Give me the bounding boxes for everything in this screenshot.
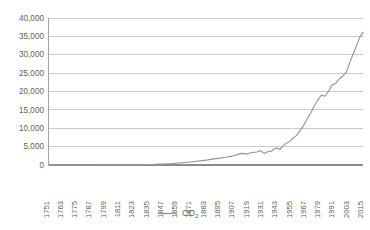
x-axis-labels-group: 1751176317751787179918111823183518471859… [42, 201, 366, 218]
x-axis-tick-label: 1955 [285, 201, 294, 218]
x-axis-tick-label: 1907 [227, 201, 236, 218]
y-axis-labels-group: 40,00035,00030,00025,00020,00015,00010,0… [19, 14, 44, 170]
x-axis-tick-label: 1979 [313, 201, 322, 218]
y-axis-tick-label: 5,000 [24, 142, 45, 151]
y-axis-tick-label: 15,000 [19, 106, 44, 115]
x-axis-tick-label: 2003 [342, 201, 351, 218]
y-axis-tick-label: 30,000 [19, 50, 44, 59]
legend-label-main: CO [182, 208, 195, 218]
x-axis-tick-label: 1895 [213, 201, 222, 218]
chart-canvas: 40,00035,00030,00025,00020,00015,00010,0… [0, 0, 370, 230]
x-axis-tick-label: 1931 [256, 201, 265, 218]
legend-label-subscript: 2 [195, 212, 199, 219]
x-axis-tick-label: 2015 [356, 201, 365, 218]
gridlines-group [49, 18, 364, 165]
data-series-group [49, 32, 364, 165]
series-line-co2 [49, 32, 364, 165]
y-axis-tick-label: 25,000 [19, 69, 44, 78]
y-axis-tick-label: 40,000 [19, 14, 44, 23]
x-axis-tick-label: 1763 [56, 201, 65, 218]
x-axis-tick-label: 1883 [199, 201, 208, 218]
co2-emissions-line-chart: 40,00035,00030,00025,00020,00015,00010,0… [0, 0, 370, 230]
x-axis-tick-label: 1751 [42, 201, 51, 218]
y-axis-tick-label: 20,000 [19, 87, 44, 96]
x-axis-tick-label: 1919 [242, 201, 251, 218]
x-axis-tick-label: 1811 [113, 201, 122, 217]
x-axis-tick-label: 1775 [70, 201, 79, 218]
y-axis-tick-label: 35,000 [19, 32, 44, 41]
x-axis-tick-label: 1835 [142, 201, 151, 218]
x-axis-tick-label: 1943 [270, 201, 279, 218]
x-axis-tick-label: 1847 [156, 201, 165, 218]
x-axis-tick-label: 1799 [99, 201, 108, 218]
x-axis-tick-label: 1787 [84, 201, 93, 218]
y-axis-tick-label: 0 [39, 161, 44, 170]
x-axis-tick-label: 1967 [299, 201, 308, 218]
x-axis-tick-label: 1823 [127, 201, 136, 218]
y-axis-tick-label: 10,000 [19, 124, 44, 133]
x-axis-tick-label: 1859 [170, 201, 179, 218]
x-axis-tick-label: 1991 [327, 201, 336, 218]
legend-entry-label: CO2 [182, 208, 199, 219]
